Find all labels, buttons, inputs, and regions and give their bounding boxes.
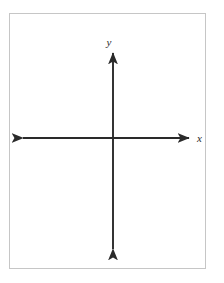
y-axis-label: y [106, 36, 112, 48]
axes-diagram: x y [0, 0, 224, 283]
x-axis-label: x [196, 132, 202, 144]
coordinate-plane-figure: x y [0, 0, 224, 283]
